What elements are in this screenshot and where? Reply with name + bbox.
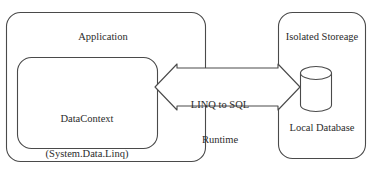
linq-to-sql-diagram: Application DataContext (System.Data.Lin…	[0, 0, 372, 176]
datacontext-label-line2: (System.Data.Linq)	[17, 148, 157, 160]
connector-label: LINQ to SQL Runtime	[170, 75, 270, 169]
connector-label-line1: LINQ to SQL	[170, 99, 270, 111]
application-label: Application	[28, 31, 178, 43]
datacontext-label-line1: DataContext	[17, 113, 157, 125]
datacontext-label: DataContext (System.Data.Linq)	[17, 89, 157, 176]
isolated-storage-label: Isolated Storeage	[272, 31, 372, 43]
local-database-label: Local Database	[272, 122, 372, 134]
connector-label-line2: Runtime	[170, 134, 270, 146]
local-database-cylinder	[301, 67, 332, 112]
